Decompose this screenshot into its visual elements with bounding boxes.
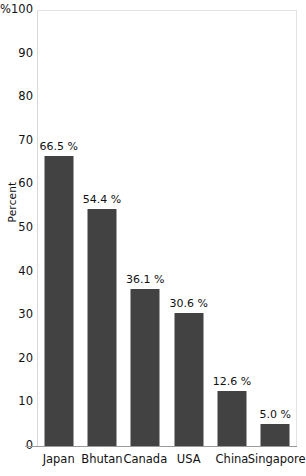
- bar-japan[interactable]: [44, 156, 73, 446]
- bar-slot-japan: 66.5 %: [37, 10, 80, 446]
- x-axis-label-singapore: Singapore: [248, 452, 303, 466]
- y-axis-tick-90: 90: [18, 48, 33, 60]
- y-axis-tick-60: 60: [18, 178, 33, 190]
- x-axis-category-labels: JapanBhutanCanadaUSAChinaSingapore: [37, 452, 306, 472]
- bar-value-label-singapore: 5.0 %: [260, 409, 291, 420]
- bars-container: 66.5 %54.4 %36.1 %30.6 %12.6 %5.0 %: [37, 10, 297, 446]
- y-axis-tick-labels: %1009080706050403020100: [0, 0, 35, 476]
- bar-value-label-china: 12.6 %: [213, 376, 251, 387]
- y-axis-tick-40: 40: [18, 266, 33, 278]
- bar-singapore[interactable]: [261, 424, 290, 446]
- bar-value-label-usa: 30.6 %: [169, 298, 207, 309]
- bar-slot-usa: 30.6 %: [167, 10, 210, 446]
- x-axis-line: [25, 446, 297, 447]
- bar-slot-singapore: 5.0 %: [254, 10, 297, 446]
- bar-slot-bhutan: 54.4 %: [80, 10, 123, 446]
- y-axis-tick-80: 80: [18, 91, 33, 103]
- y-axis-tick-20: 20: [18, 353, 33, 365]
- bar-value-label-canada: 36.1 %: [126, 274, 164, 285]
- bar-china[interactable]: [217, 391, 246, 446]
- bar-slot-china: 12.6 %: [210, 10, 253, 446]
- y-axis-tick-50: 50: [18, 222, 33, 234]
- y-axis-tick-10: 10: [18, 396, 33, 408]
- bar-usa[interactable]: [174, 313, 203, 446]
- bar-value-label-bhutan: 54.4 %: [83, 194, 121, 205]
- y-axis-tick-100: %100: [0, 4, 33, 16]
- y-axis-tick-30: 30: [18, 309, 33, 321]
- bar-value-label-japan: 66.5 %: [39, 141, 77, 152]
- bar-slot-canada: 36.1 %: [124, 10, 167, 446]
- y-axis-tick-70: 70: [18, 135, 33, 147]
- bar-bhutan[interactable]: [87, 209, 116, 446]
- bar-chart: Percent %1009080706050403020100 66.5 %54…: [0, 0, 306, 476]
- bar-canada[interactable]: [131, 289, 160, 446]
